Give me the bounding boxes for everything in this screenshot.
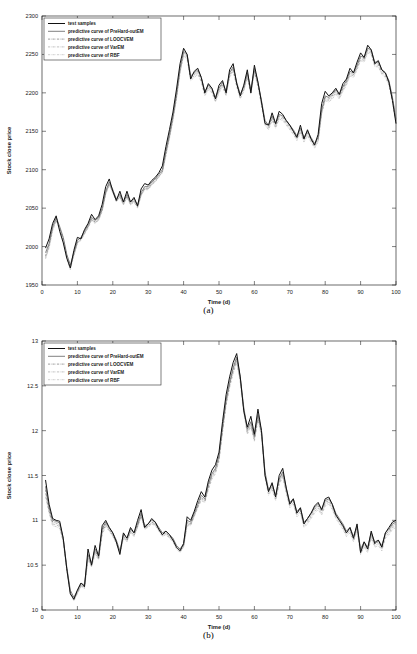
- y-tick-label: 12: [32, 428, 38, 434]
- x-tick-label: 50: [216, 289, 222, 295]
- x-tick-label: 20: [110, 614, 116, 620]
- y-tick-label: 13: [32, 338, 38, 344]
- legend-label-varem: predictive curve of VarEM: [68, 370, 124, 375]
- y-tick-label: 2200: [26, 90, 38, 96]
- y-tick-label: 11: [32, 517, 38, 523]
- x-tick-label: 40: [180, 289, 186, 295]
- legend-label-rbf: predictive curve of RBF: [68, 53, 120, 58]
- legend-label-test-samples: test samples: [68, 346, 96, 351]
- legend-label-prehard-outem: predictive curve of PreHard-outEM: [68, 354, 144, 359]
- y-tick-label: 2050: [26, 205, 38, 211]
- y-tick-label: 10: [32, 607, 38, 613]
- x-tick-label: 90: [357, 289, 363, 295]
- y-tick-label: 12.5: [27, 383, 38, 389]
- legend-label-rbf: predictive curve of RBF: [68, 378, 120, 383]
- legend-label-loocvem: predictive curve of LOOCVEM: [68, 362, 134, 367]
- y-tick-label: 1950: [26, 282, 38, 288]
- x-tick-label: 100: [391, 289, 400, 295]
- x-tick-label: 40: [180, 614, 186, 620]
- x-tick-label: 20: [110, 289, 116, 295]
- x-tick-label: 60: [251, 614, 257, 620]
- y-tick-label: 2100: [26, 167, 38, 173]
- x-tick-label: 60: [251, 289, 257, 295]
- figure-panel-b: 01020304050607080901001010.51111.51212.5…: [0, 325, 417, 654]
- x-tick-label: 100: [391, 614, 400, 620]
- x-tick-label: 0: [40, 289, 43, 295]
- x-tick-label: 70: [287, 614, 293, 620]
- y-tick-label: 11.5: [28, 473, 38, 479]
- x-tick-label: 0: [40, 614, 43, 620]
- y-axis-title: Stock close price: [6, 126, 12, 174]
- x-tick-label: 80: [322, 614, 328, 620]
- stock-close-price-chart-b: 01020304050607080901001010.51111.51212.5…: [0, 325, 417, 630]
- figure-panel-a: 0102030405060708090100195020002050210021…: [0, 0, 417, 325]
- stock-close-price-chart-a: 0102030405060708090100195020002050210021…: [0, 0, 417, 305]
- x-tick-label: 50: [216, 614, 222, 620]
- x-tick-label: 70: [287, 289, 293, 295]
- subfigure-caption-b: (b): [0, 630, 417, 640]
- x-tick-label: 10: [74, 289, 80, 295]
- y-tick-label: 10.5: [27, 562, 38, 568]
- x-tick-label: 10: [74, 614, 80, 620]
- y-axis-title: Stock close price: [6, 451, 12, 499]
- legend-label-varem: predictive curve of VarEM: [68, 45, 124, 50]
- x-tick-label: 90: [357, 614, 363, 620]
- y-tick-label: 2150: [26, 128, 38, 134]
- legend-label-test-samples: test samples: [68, 21, 96, 26]
- legend-label-prehard-outem: predictive curve of PreHard-outEM: [68, 29, 144, 34]
- y-tick-label: 2250: [26, 51, 38, 57]
- y-tick-label: 2300: [26, 13, 38, 19]
- subfigure-caption-a: (a): [0, 305, 417, 315]
- x-tick-label: 80: [322, 289, 328, 295]
- x-tick-label: 30: [145, 289, 151, 295]
- y-tick-label: 2000: [26, 244, 38, 250]
- x-tick-label: 30: [145, 614, 151, 620]
- legend-label-loocvem: predictive curve of LOOCVEM: [68, 37, 134, 42]
